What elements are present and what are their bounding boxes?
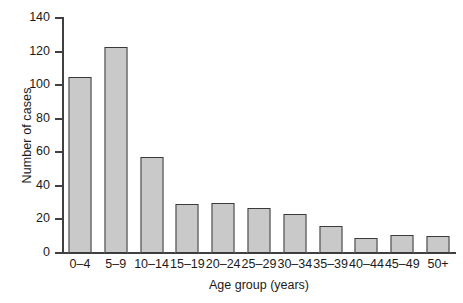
y-axis-tick-label: 60	[4, 145, 50, 157]
y-axis-tick-label: 140	[4, 11, 50, 23]
y-axis-tick-label: 100	[4, 78, 50, 90]
bar-slot	[420, 18, 456, 253]
bar[interactable]	[355, 238, 378, 253]
y-axis-tick-label: 20	[4, 212, 50, 224]
x-axis-tick-label: 25–29	[242, 256, 277, 272]
bar-slot	[205, 18, 241, 253]
y-axis-tick-label-wrap: 120	[0, 45, 50, 57]
y-axis-tick-mark	[55, 218, 62, 220]
bar-chart: Number of cases 020406080100120140 0–45–…	[0, 0, 463, 303]
bar[interactable]	[283, 214, 306, 253]
bar[interactable]	[391, 235, 414, 253]
bar[interactable]	[104, 47, 127, 253]
bar[interactable]	[319, 226, 342, 253]
bar-slot	[384, 18, 420, 253]
y-axis-tick-label-wrap: 60	[0, 145, 50, 157]
bar[interactable]	[247, 208, 270, 253]
bar-slot	[241, 18, 277, 253]
bar[interactable]	[140, 157, 163, 253]
y-axis-tick-mark	[55, 51, 62, 53]
bar[interactable]	[68, 77, 91, 253]
x-axis-tick-label: 5–9	[105, 256, 126, 272]
bar-slot	[134, 18, 170, 253]
x-axis-tick-label: 10–14	[134, 256, 169, 272]
y-axis-tick-label-wrap: 40	[0, 179, 50, 191]
bar-slot	[349, 18, 385, 253]
x-axis-tick-label: 40–44	[349, 256, 384, 272]
bar-slot	[169, 18, 205, 253]
x-axis-tick-label: 35–39	[313, 256, 348, 272]
y-axis-tick-mark	[55, 151, 62, 153]
x-axis-tick-label: 0–4	[69, 256, 90, 272]
x-axis-title: Age group (years)	[62, 278, 456, 293]
x-axis-tick-label: 50+	[427, 256, 448, 272]
y-axis-tick-label-wrap: 80	[0, 112, 50, 124]
y-axis-tick-mark	[55, 252, 62, 254]
y-axis-tick-label-wrap: 140	[0, 11, 50, 23]
bar[interactable]	[176, 204, 199, 253]
bar-slot	[98, 18, 134, 253]
x-axis-tick-label: 15–19	[170, 256, 205, 272]
y-axis-tick-mark	[55, 84, 62, 86]
bars-container	[62, 18, 456, 253]
y-axis-tick-mark	[55, 17, 62, 19]
y-axis-tick-label: 0	[4, 246, 50, 258]
y-axis-tick-mark	[55, 118, 62, 120]
x-axis-tick-labels: 0–45–910–1415–1920–2425–2930–3435–3940–4…	[62, 256, 456, 276]
y-axis-tick-mark	[55, 185, 62, 187]
x-axis-tick-label: 20–24	[206, 256, 241, 272]
y-axis-tick-label-wrap: 100	[0, 78, 50, 90]
y-axis-tick-label-wrap: 0	[0, 246, 50, 258]
bar-slot	[277, 18, 313, 253]
y-axis-tick-label: 40	[4, 179, 50, 191]
x-axis-tick-label: 45–49	[385, 256, 420, 272]
x-axis-tick-label: 30–34	[277, 256, 312, 272]
bar[interactable]	[212, 203, 235, 253]
y-axis-tick-label: 120	[4, 45, 50, 57]
y-axis-tick-label: 80	[4, 112, 50, 124]
bar-slot	[62, 18, 98, 253]
bar[interactable]	[427, 236, 450, 253]
y-axis-tick-label-wrap: 20	[0, 212, 50, 224]
bar-slot	[313, 18, 349, 253]
